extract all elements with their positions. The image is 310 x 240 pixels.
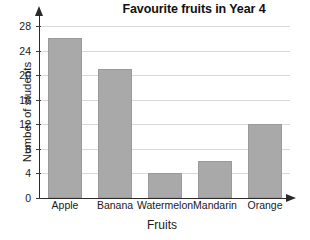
- y-tick-label: 4: [9, 168, 31, 179]
- y-tick-mark: [36, 198, 41, 199]
- y-tick-label: 20: [9, 70, 31, 81]
- y-tick-mark: [36, 124, 41, 125]
- plot-area: [40, 26, 290, 198]
- chart-title: Favourite fruits in Year 4: [86, 2, 302, 16]
- bar-mandarin: [198, 161, 232, 198]
- y-tick-mark: [36, 173, 41, 174]
- y-tick-label: 8: [9, 144, 31, 155]
- y-tick-label: 24: [9, 46, 31, 57]
- bar-apple: [48, 38, 82, 198]
- y-tick-label: 12: [9, 119, 31, 130]
- y-axis-arrow-icon: [35, 6, 43, 16]
- bar-watermelon: [148, 173, 182, 198]
- y-axis-line: [39, 14, 40, 199]
- y-gridline: [40, 26, 290, 27]
- bar-chart: Favourite fruits in Year 4 Number of stu…: [0, 0, 310, 240]
- bar-orange: [248, 124, 282, 198]
- y-tick-mark: [36, 75, 41, 76]
- y-tick-mark: [36, 51, 41, 52]
- y-tick-mark: [36, 149, 41, 150]
- x-category-label: Orange: [225, 200, 305, 211]
- y-tick-mark: [36, 26, 41, 27]
- y-tick-mark: [36, 100, 41, 101]
- x-axis-title: Fruits: [36, 218, 288, 232]
- bar-banana: [98, 69, 132, 198]
- y-tick-label: 28: [9, 21, 31, 32]
- y-tick-label: 16: [9, 95, 31, 106]
